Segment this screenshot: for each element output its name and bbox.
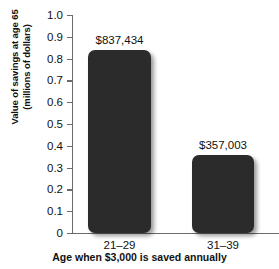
y-tick-mark [67,124,72,125]
bar [192,155,254,233]
y-axis-title: Value of savings at age 65 (millions of … [9,0,39,151]
plot-area: 1.00.90.80.70.60.50.40.30.20.10 $837,434… [72,15,279,233]
x-axis-line [72,233,279,234]
x-category-label: 31–39 [207,239,239,251]
y-tick-mark [67,59,72,60]
y-tick-mark [67,37,72,38]
y-tick-mark [67,189,72,190]
y-tick-mark [67,80,72,81]
y-tick-label: 0.7 [47,74,63,86]
y-tick-mark [67,102,72,103]
bar-value-label: $837,434 [96,34,144,46]
y-tick-label: 0.4 [47,140,63,152]
bar-chart: Value of savings at age 65 (millions of … [0,0,279,269]
x-category-label: 21–29 [104,239,136,251]
y-axis-title-line-1: Value of savings at age 65 [9,0,21,151]
y-tick-label: 0.8 [47,53,63,65]
x-axis-title: Age when $3,000 is saved annually [0,251,279,263]
y-tick-label: 0 [57,227,63,239]
y-tick-mark [67,233,72,234]
y-tick-mark [67,146,72,147]
y-tick-label: 0.2 [47,183,63,195]
y-tick-mark [67,211,72,212]
y-axis-title-line-2: (millions of dollars) [21,0,33,151]
y-tick-label: 0.1 [47,205,63,217]
y-tick-mark [67,168,72,169]
y-tick-label: 0.3 [47,162,63,174]
y-tick-label: 0.6 [47,96,63,108]
y-tick-label: 0.5 [47,118,63,130]
bar-value-label: $357,003 [199,139,247,151]
y-tick-label: 1.0 [47,9,63,21]
y-axis-line [72,15,73,233]
y-tick-mark [67,15,72,16]
y-tick-label: 0.9 [47,31,63,43]
bar [88,50,151,233]
